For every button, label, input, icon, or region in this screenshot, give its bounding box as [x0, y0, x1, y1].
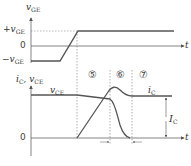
- upper-zero-label: 0: [20, 41, 26, 50]
- lower-x-axis-label: t: [185, 133, 189, 142]
- ic-waveform: [77, 87, 172, 138]
- plus-vge-label: +vGE: [3, 25, 25, 35]
- ic-curve-label: iC: [148, 86, 155, 96]
- lower-zero-label: 0: [20, 133, 26, 142]
- lower-y-axis-label: iC, vCE: [16, 75, 43, 85]
- time-markers: [77, 31, 132, 144]
- upper-y-axis-label: vGE: [26, 3, 40, 13]
- vce-waveform: [31, 95, 130, 138]
- interval-6-label: ⑥: [116, 70, 125, 80]
- vce-curve-label: vCE: [50, 86, 64, 96]
- upper-x-axis-label: t: [185, 41, 189, 50]
- interval-5-label: ⑤: [88, 70, 97, 80]
- minus-vge-label: −vGE: [2, 55, 24, 65]
- interval-7-label: ⑦: [139, 70, 148, 80]
- upper-axes: [31, 18, 184, 63]
- ic-steady-label: IC: [169, 114, 178, 125]
